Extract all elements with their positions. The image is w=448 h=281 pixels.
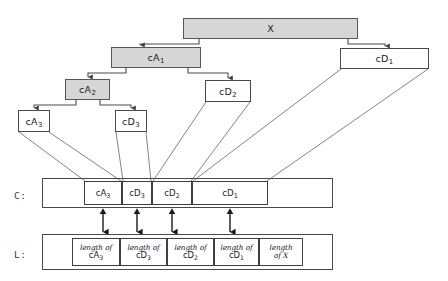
tree-edge-ca2-to-cd3 [100,100,131,108]
tree-node-label: cA1 [147,52,164,63]
l-cell-l-X: lengthof X [259,238,303,266]
c-segment-c-cD1: cD1 [192,181,268,205]
double-arrow-group [100,208,234,232]
tree-node-label: cA2 [79,84,96,95]
tree-node-ca2: cA2 [65,79,110,100]
c-segment-label: cA3 [96,188,111,198]
l-cell-line2: cD3 [136,251,151,260]
guide-line [146,132,151,181]
c-segment-c-cA3: cA3 [84,181,122,205]
tree-edge-ca2-to-ca3 [34,100,76,108]
arrowhead-up [169,208,176,214]
tree-node-label: cD1 [376,53,394,64]
l-cell-line2: of X [274,252,288,260]
tree-node-label: cD2 [219,86,237,97]
c-segment-c-cD2: cD2 [152,181,192,205]
guide-line [153,102,206,181]
tree-edge-x-to-ca1 [140,39,199,45]
tree-edge-ca1-to-cd2 [188,68,228,78]
guide-line [49,132,121,181]
tree-node-label: cD3 [122,116,140,127]
wavelet-decomposition-figure: XcA1cD1cA2cD2cA3cD3 C: cA3cD3cD2cD1 L: l… [0,0,448,281]
l-cell-line2: cA3 [89,251,103,260]
l-row-label: L: [14,249,26,260]
arrowhead-up [100,208,107,214]
l-cell-l-cD1: length ofcD1 [214,238,259,266]
tree-node-cd1: cD1 [340,48,429,69]
c-segment-label: cD3 [129,188,144,198]
tree-edge-ca1-to-ca2 [88,68,126,77]
tree-node-ca3: cA3 [18,110,50,132]
l-cell-line2: cD2 [183,251,198,260]
l-cell-l-cD3: length ofcD3 [120,238,167,266]
l-cell-line2: cD1 [229,251,244,260]
tree-edge-x-to-cd1 [348,39,385,46]
arrowhead-up [227,208,234,214]
guide-line [116,132,123,181]
tree-node-cd2: cD2 [205,80,251,102]
tree-node-cd3: cD3 [115,110,147,132]
c-segment-c-cD3: cD3 [122,181,152,205]
l-cell-l-cA3: length ofcA3 [72,238,120,266]
c-segment-label: cD2 [164,188,179,198]
tree-node-label: cA3 [25,116,42,127]
l-cell-l-cD2: length ofcD2 [167,238,214,266]
guide-line [267,69,428,181]
guide-line [191,102,250,181]
c-row-label: C: [14,190,26,201]
tree-node-label: X [267,23,274,34]
tree-node-ca1: cA1 [111,47,201,68]
tree-node-x: X [183,18,358,39]
arrowhead-up [134,208,141,214]
c-segment-label: cD1 [222,188,237,198]
guide-line [19,132,85,181]
